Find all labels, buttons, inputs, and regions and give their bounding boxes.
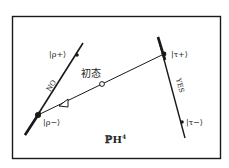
projective-hilbert-space-diagram: |ρ+⟩ |ρ−⟩ |τ+⟩ |τ−⟩ 初态 NO YES ℙH4: [0, 0, 229, 168]
initial-state-label: 初态: [81, 67, 101, 79]
direction-arrow-icon: [59, 99, 68, 107]
space-label: ℙH4: [105, 133, 126, 145]
tau-minus-point: [180, 120, 184, 124]
rho-minus-point: [35, 112, 41, 118]
space-label-superscript: 4: [122, 133, 126, 140]
rho-minus-label: |ρ−⟩: [43, 118, 60, 127]
tau-plus-point: [162, 52, 167, 57]
initial-state-marker: [100, 82, 105, 87]
tau-minus-label: |τ−⟩: [186, 118, 203, 127]
no-line-label: NO: [45, 79, 58, 94]
yes-line-label: YES: [174, 76, 186, 93]
rho-plus-label: |ρ+⟩: [49, 50, 66, 59]
space-label-base: ℙH: [105, 134, 122, 145]
rho-plus-point: [75, 53, 79, 57]
tau-plus-label: |τ+⟩: [171, 50, 188, 59]
